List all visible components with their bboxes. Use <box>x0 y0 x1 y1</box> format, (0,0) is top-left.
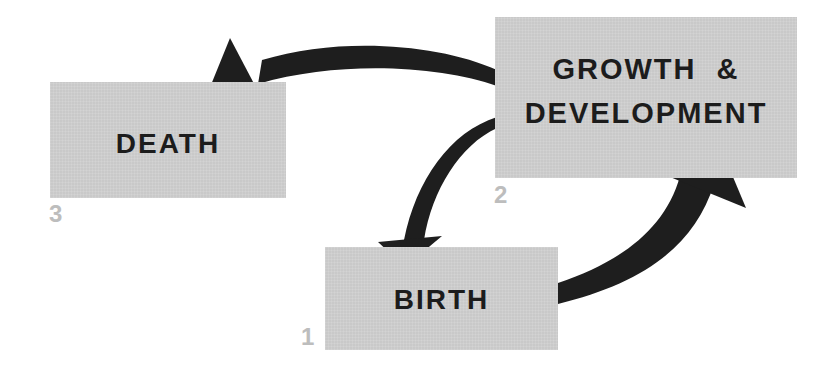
node-death-label: DEATH <box>116 128 220 160</box>
node-growth-label: GROWTH & DEVELOPMENT <box>525 47 768 135</box>
node-birth: BIRTH <box>325 247 558 350</box>
node-death-number: 3 <box>49 200 62 228</box>
node-growth-development: GROWTH & DEVELOPMENT <box>495 17 797 178</box>
node-growth-label-line2: DEVELOPMENT <box>525 91 768 135</box>
node-death: DEATH <box>50 82 286 198</box>
arrow-growth-to-birth-icon <box>378 117 497 267</box>
node-birth-label: BIRTH <box>394 284 490 316</box>
node-growth-number: 2 <box>494 181 507 209</box>
node-growth-label-line1: GROWTH & <box>525 47 768 91</box>
node-birth-number: 1 <box>301 323 314 351</box>
life-cycle-diagram: DEATH 3 GROWTH & DEVELOPMENT 2 BIRTH 1 <box>0 0 838 367</box>
